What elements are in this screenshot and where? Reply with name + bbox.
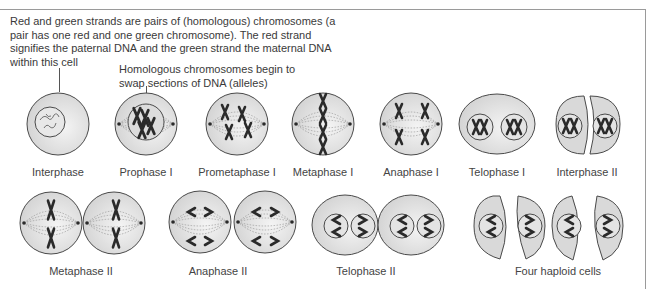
- cell-interphase-ii: [556, 96, 620, 154]
- cell-prometaphase-i: [206, 93, 268, 155]
- cell-anaphase-i: [380, 93, 442, 155]
- label-metaphase-ii: Metaphase II: [49, 265, 113, 277]
- cell-metaphase-i: [292, 93, 354, 155]
- cell-telophase-i: [459, 94, 535, 154]
- label-prometaphase-i: Prometaphase I: [198, 166, 276, 178]
- cell-prophase-i: [115, 93, 177, 155]
- label-telophase-ii: Telophase II: [336, 265, 395, 277]
- label-interphase-ii: Interphase II: [556, 166, 617, 178]
- label-telophase-i: Telophase I: [469, 166, 525, 178]
- label-four-haploid-cells: Four haploid cells: [515, 265, 601, 277]
- cell-telophase-ii: [312, 195, 444, 255]
- label-anaphase-i: Anaphase I: [383, 166, 439, 178]
- label-metaphase-i: Metaphase I: [293, 166, 354, 178]
- label-prophase-i: Prophase I: [119, 166, 172, 178]
- cell-metaphase-ii: [20, 192, 145, 254]
- cell-four-haploid: [474, 196, 623, 260]
- cell-anaphase-ii: [169, 191, 296, 253]
- cell-interphase: [27, 93, 89, 155]
- meiosis-diagram: [0, 0, 656, 289]
- label-anaphase-ii: Anaphase II: [189, 265, 248, 277]
- label-interphase: Interphase: [32, 166, 84, 178]
